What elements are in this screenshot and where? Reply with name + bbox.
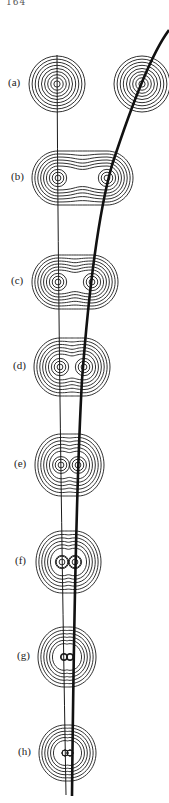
panel-f <box>36 531 101 593</box>
panel-label: (h) <box>18 745 31 757</box>
panel-h <box>39 725 96 781</box>
panel-label: (b) <box>11 170 24 182</box>
panel-label: (f) <box>15 554 26 566</box>
contour-rings <box>29 56 169 781</box>
panel-e <box>35 434 104 496</box>
panel-label: (a) <box>8 76 20 88</box>
thick-curved-line <box>72 30 169 796</box>
panel-a <box>29 56 169 112</box>
panel-label: (d) <box>13 359 26 371</box>
panel-label: (e) <box>14 457 26 469</box>
merging-contours-diagram <box>0 0 169 803</box>
panel-c <box>32 255 118 309</box>
panel-label: (c) <box>11 274 23 286</box>
panel-label: (g) <box>17 649 30 661</box>
panel-b <box>32 151 133 205</box>
panel-g <box>38 627 96 687</box>
panel-d <box>34 338 110 396</box>
